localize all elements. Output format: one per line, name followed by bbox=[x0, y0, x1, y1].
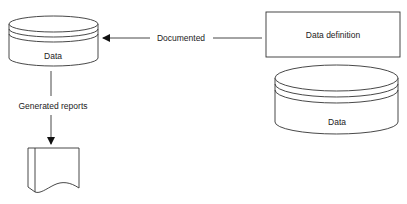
diagram-canvas: Data Data definition Data Documented Gen… bbox=[0, 0, 407, 204]
data-store-right-label: Data bbox=[328, 117, 346, 127]
report-document-shape bbox=[28, 148, 79, 192]
data-store-left-label: Data bbox=[44, 51, 62, 61]
documented-edge-label: Documented bbox=[157, 33, 205, 43]
generated-reports-edge-label: Generated reports bbox=[19, 101, 88, 111]
data-definition-label: Data definition bbox=[306, 30, 360, 40]
